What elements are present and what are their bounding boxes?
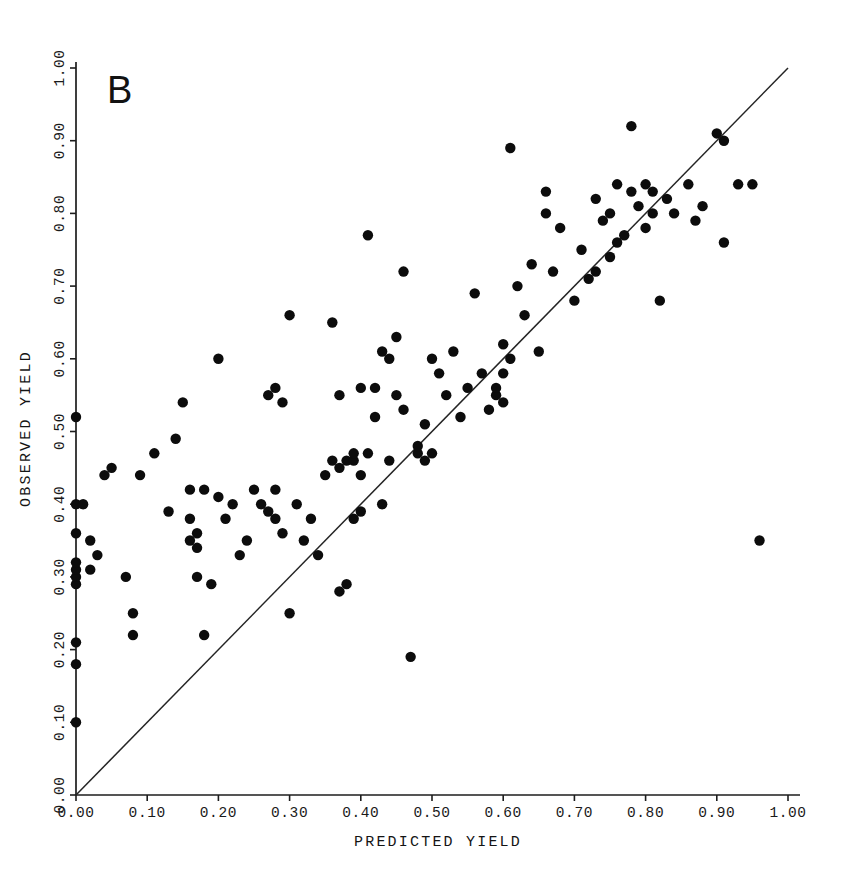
x-tick-label: 0.20 — [200, 805, 237, 821]
data-point — [106, 463, 116, 473]
data-point — [398, 404, 408, 414]
data-point — [591, 194, 601, 204]
data-point — [135, 470, 145, 480]
data-point — [491, 383, 501, 393]
data-point — [420, 419, 430, 429]
data-point — [320, 470, 330, 480]
data-point — [448, 346, 458, 356]
data-point — [78, 499, 88, 509]
data-point — [413, 441, 423, 451]
data-point — [626, 121, 636, 131]
data-point — [505, 354, 515, 364]
data-point — [206, 579, 216, 589]
data-point — [85, 535, 95, 545]
data-point — [683, 179, 693, 189]
data-point — [455, 412, 465, 422]
y-tick-label: 0.20 — [52, 631, 68, 668]
data-point — [334, 390, 344, 400]
data-point — [569, 295, 579, 305]
data-point — [605, 208, 615, 218]
data-point — [149, 448, 159, 458]
data-point — [121, 572, 131, 582]
data-point — [655, 295, 665, 305]
data-point — [270, 514, 280, 524]
data-point — [163, 506, 173, 516]
data-point — [178, 397, 188, 407]
data-point — [270, 484, 280, 494]
data-point — [697, 201, 707, 211]
data-point — [199, 484, 209, 494]
data-point — [747, 179, 757, 189]
data-point — [519, 310, 529, 320]
data-point — [648, 208, 658, 218]
y-tick-label: 1.00 — [52, 49, 68, 86]
data-point — [526, 259, 536, 269]
y-tick-label: 0.60 — [52, 340, 68, 377]
data-point — [284, 608, 294, 618]
data-point — [292, 499, 302, 509]
x-tick-label: 0.80 — [627, 805, 664, 821]
data-point — [92, 550, 102, 560]
data-point — [462, 383, 472, 393]
data-point — [341, 579, 351, 589]
y-tick-label: 0.10 — [52, 704, 68, 741]
data-point — [754, 535, 764, 545]
data-point — [185, 514, 195, 524]
data-point — [484, 404, 494, 414]
x-tick-label: 0.50 — [413, 805, 450, 821]
data-point — [648, 186, 658, 196]
data-point — [284, 310, 294, 320]
data-point — [391, 390, 401, 400]
data-point — [591, 266, 601, 276]
data-point — [313, 550, 323, 560]
data-point — [192, 543, 202, 553]
data-point — [192, 572, 202, 582]
data-point — [249, 484, 259, 494]
data-point — [477, 368, 487, 378]
data-point — [391, 332, 401, 342]
data-point — [719, 136, 729, 146]
data-point — [640, 223, 650, 233]
y-tick-label: 0.90 — [52, 122, 68, 159]
data-point — [213, 354, 223, 364]
data-point — [498, 397, 508, 407]
data-point — [227, 499, 237, 509]
data-point — [555, 223, 565, 233]
y-tick-label: 0.30 — [52, 558, 68, 595]
data-point — [541, 186, 551, 196]
x-tick-label: 0.40 — [342, 805, 379, 821]
data-point — [719, 237, 729, 247]
x-tick-label: 0.70 — [556, 805, 593, 821]
data-point — [612, 179, 622, 189]
data-point — [71, 717, 81, 727]
panel-label: B — [107, 69, 132, 111]
data-point — [405, 652, 415, 662]
data-point — [548, 266, 558, 276]
data-point — [605, 252, 615, 262]
data-point — [356, 470, 366, 480]
data-point — [220, 514, 230, 524]
y-axis-title: OBSERVED YIELD — [18, 350, 35, 507]
data-point — [235, 550, 245, 560]
data-point — [348, 448, 358, 458]
data-point — [470, 288, 480, 298]
data-point — [170, 434, 180, 444]
data-point — [327, 317, 337, 327]
data-point — [733, 179, 743, 189]
x-tick-label: 0.30 — [271, 805, 308, 821]
y-tick-label: 0.70 — [52, 267, 68, 304]
data-point — [242, 535, 252, 545]
data-point — [534, 346, 544, 356]
data-point — [370, 383, 380, 393]
data-point — [398, 266, 408, 276]
data-point — [185, 484, 195, 494]
data-point — [427, 354, 437, 364]
y-tick-label: 0.50 — [52, 413, 68, 450]
x-axis-title: PREDICTED YIELD — [354, 834, 522, 851]
data-point — [505, 143, 515, 153]
figure-container: 0.000.100.200.300.400.500.600.700.800.90… — [0, 0, 847, 872]
data-point — [541, 208, 551, 218]
data-point — [626, 186, 636, 196]
data-point — [384, 455, 394, 465]
data-point — [213, 492, 223, 502]
